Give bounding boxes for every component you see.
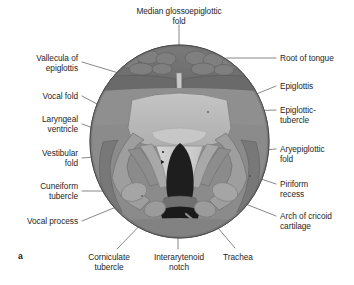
vocal-process-right [192, 198, 195, 201]
label-cuneiform-tubercle: Cuneiform tubercle [0, 181, 78, 202]
label-vallecula-of-epiglottis: Vallecula of epiglottis [0, 53, 78, 74]
label-piriform-recess: Piriform recess [280, 179, 354, 200]
label-aryepiglottic-fold: Aryepiglottic fold [280, 144, 354, 165]
label-trachea: Trachea [213, 252, 263, 262]
label-vocal-fold: Vocal fold [0, 91, 78, 101]
label-vocal-process: Vocal process [0, 216, 78, 226]
label-epiglottic-tubercle: Epiglottic- tubercle [280, 105, 354, 126]
label-root-of-tongue: Root of tongue [280, 53, 354, 63]
label-laryngeal-ventricle: Laryngeal ventricle [0, 114, 78, 135]
larynx-illustration [90, 45, 269, 240]
label-vestibular-fold: Vestibular fold [0, 148, 78, 169]
label-epiglottis: Epiglottis [280, 81, 354, 91]
label-arch-of-cricoid-cartilage: Arch of cricoid cartilage [280, 211, 354, 232]
label-median-glossoepiglottic-fold: Median glossoepiglottic fold [112, 6, 246, 27]
figure-letter: a [18, 251, 23, 261]
vocal-process-left [166, 198, 169, 201]
larynx-anatomy-figure [0, 0, 354, 285]
label-interarytenoid-notch: Interarytenoid notch [137, 252, 221, 273]
